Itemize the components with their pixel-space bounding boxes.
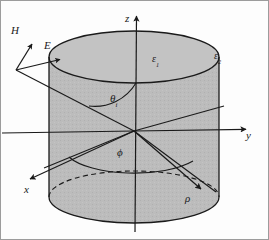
e-field-label: E xyxy=(44,40,51,51)
h-field-vector xyxy=(16,44,32,70)
x-axis-label: x xyxy=(24,184,29,195)
phi-label: ϕ xyxy=(117,147,123,158)
z-axis-label: z xyxy=(125,13,129,24)
h-field-label: H xyxy=(11,25,19,36)
epsilon-2-label: ε2 xyxy=(214,51,221,63)
rho-label: ρ xyxy=(185,193,190,204)
figure-container: z y x H E ε1 ε2 θi ϕ ρ xyxy=(0,0,269,240)
epsilon-1-label: ε1 xyxy=(152,54,159,66)
coordinate-diagram-svg xyxy=(0,0,269,240)
theta-i-label: θi xyxy=(110,93,117,107)
y-axis-label: y xyxy=(246,130,251,141)
